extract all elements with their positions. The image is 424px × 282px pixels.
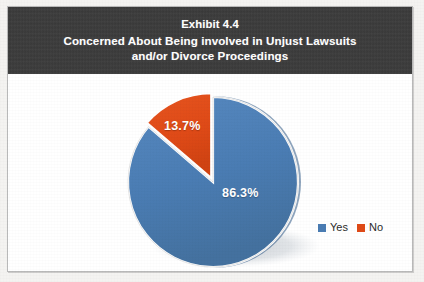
exhibit-title-band: Exhibit 4.4 Concerned About Being involv… xyxy=(8,7,412,74)
legend-label-no: No xyxy=(369,222,383,233)
exhibit-title-line-2: Concerned About Being involved in Unjust… xyxy=(63,33,356,49)
legend-item-no[interactable]: No xyxy=(357,222,383,233)
legend-swatch-no-icon xyxy=(357,224,365,232)
chart-plot-area: 13.7% 86.3% Yes No xyxy=(8,74,412,271)
legend-item-yes[interactable]: Yes xyxy=(318,222,348,233)
scanned-page: Exhibit 4.4 Concerned About Being involv… xyxy=(0,0,424,282)
exhibit-figure: Exhibit 4.4 Concerned About Being involv… xyxy=(7,6,413,272)
exhibit-title-line-1: Exhibit 4.4 xyxy=(181,17,239,33)
pie-chart xyxy=(8,74,412,271)
chart-legend: Yes No xyxy=(318,222,383,233)
exhibit-title-line-3: and/or Divorce Proceedings xyxy=(132,48,289,64)
pie-label-no: 13.7% xyxy=(164,119,200,133)
pie-label-yes: 86.3% xyxy=(222,186,258,200)
legend-label-yes: Yes xyxy=(330,222,348,233)
legend-swatch-yes-icon xyxy=(318,224,326,232)
